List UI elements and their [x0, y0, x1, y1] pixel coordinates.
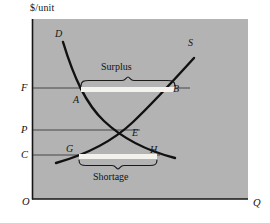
- supply-curve-label: S: [188, 38, 193, 48]
- price-label-P: P: [21, 125, 27, 136]
- point-label-G: G: [66, 144, 73, 154]
- price-label-C: C: [21, 150, 28, 161]
- point-label-E: E: [132, 128, 138, 138]
- price-label-F: F: [21, 83, 27, 94]
- point-label-A: A: [73, 95, 79, 105]
- x-axis-label: Q: [253, 198, 261, 209]
- demand-curve-label: D: [55, 29, 62, 39]
- supply-demand-figure: $/unit D S F P C A B E G H Surplus Short…: [0, 0, 270, 223]
- point-label-B: B: [173, 84, 179, 94]
- shortage-label: Shortage: [93, 172, 129, 182]
- origin-label: O: [22, 197, 30, 208]
- diagram-canvas: [0, 0, 270, 223]
- shortage-band: [79, 154, 157, 159]
- surplus-band: [81, 87, 175, 92]
- y-axis-unit-label: $/unit: [30, 2, 55, 13]
- point-label-H: H: [150, 145, 157, 155]
- surplus-label: Surplus: [101, 62, 132, 72]
